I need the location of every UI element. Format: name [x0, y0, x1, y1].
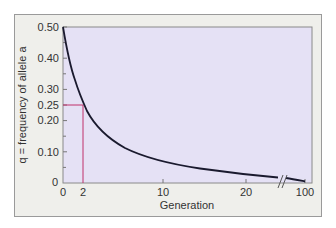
svg-text:2: 2: [80, 186, 86, 198]
svg-text:0.10: 0.10: [38, 146, 59, 158]
svg-text:0.30: 0.30: [38, 83, 59, 95]
svg-text:0: 0: [52, 176, 58, 188]
x-tick-labels: 0 2 10 20 100: [60, 186, 314, 198]
svg-text:0.50: 0.50: [38, 21, 59, 33]
svg-text:10: 10: [157, 186, 169, 198]
svg-text:0: 0: [60, 186, 66, 198]
x-axis-title: Generation: [160, 199, 214, 211]
svg-text:100: 100: [296, 186, 314, 198]
svg-text:0.20: 0.20: [38, 114, 59, 126]
svg-text:0.25: 0.25: [38, 99, 59, 111]
svg-text:20: 20: [240, 186, 252, 198]
allele-frequency-chart: 0.50 0.40 0.30 0.25 0.20 0.10 0 0 2 10 2…: [0, 0, 336, 228]
y-axis-title: q = frequency of allele a: [16, 46, 28, 164]
plot-area: [63, 27, 312, 183]
y-tick-labels: 0.50 0.40 0.30 0.25 0.20 0.10 0: [38, 21, 59, 188]
svg-text:0.40: 0.40: [38, 52, 59, 64]
